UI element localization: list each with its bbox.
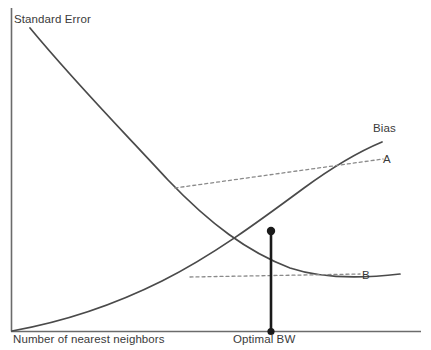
bias-variance-tradeoff-figure: Standard Error Number of nearest neighbo… <box>0 0 431 350</box>
intersection-point-marker <box>267 227 275 235</box>
bias-curve-label: Bias <box>373 122 396 134</box>
plot-canvas <box>0 0 431 350</box>
y-axis-label: Standard Error <box>14 13 91 25</box>
standard-error-curve <box>30 28 400 277</box>
tangent-line-a <box>175 159 383 188</box>
tangent-a-label: A <box>383 153 391 165</box>
tangent-b-label: B <box>362 269 370 281</box>
x-axis-label: Number of nearest neighbors <box>13 333 165 345</box>
optimal-bw-label: Optimal BW <box>233 333 295 345</box>
bias-curve <box>12 142 382 331</box>
